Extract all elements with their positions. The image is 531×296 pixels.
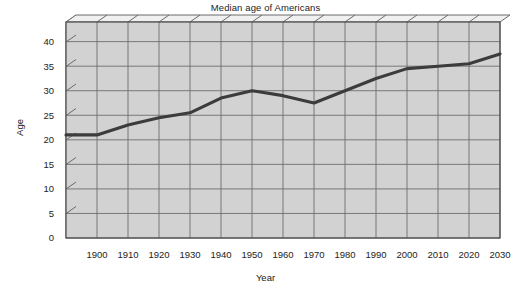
- ytick-label-25: 25: [28, 111, 54, 121]
- ytick-label-10: 10: [28, 184, 54, 194]
- xtick-label-1940: 1940: [204, 250, 238, 260]
- xtick-label-1960: 1960: [266, 250, 300, 260]
- xtick-label-1990: 1990: [359, 250, 393, 260]
- x-axis-title: Year: [0, 272, 531, 283]
- xtick-label-1970: 1970: [297, 250, 331, 260]
- xtick-label-2010: 2010: [421, 250, 455, 260]
- xtick-label-1920: 1920: [142, 250, 176, 260]
- ytick-label-20: 20: [28, 135, 54, 145]
- y-axis-title: Age: [14, 108, 25, 148]
- xtick-label-1910: 1910: [111, 250, 145, 260]
- xtick-label-2000: 2000: [390, 250, 424, 260]
- xtick-label-1950: 1950: [235, 250, 269, 260]
- ytick-label-30: 30: [28, 86, 54, 96]
- ytick-label-5: 5: [28, 209, 54, 219]
- ytick-label-35: 35: [28, 62, 54, 72]
- chart-container: Median age of Americans: [0, 0, 531, 296]
- ytick-label-15: 15: [28, 160, 54, 170]
- ytick-label-40: 40: [28, 37, 54, 47]
- ytick-label-0: 0: [28, 233, 54, 243]
- xtick-label-1900: 1900: [80, 250, 114, 260]
- xtick-label-2030: 2030: [483, 250, 517, 260]
- xtick-label-1930: 1930: [173, 250, 207, 260]
- xtick-label-2020: 2020: [452, 250, 486, 260]
- xtick-label-1980: 1980: [328, 250, 362, 260]
